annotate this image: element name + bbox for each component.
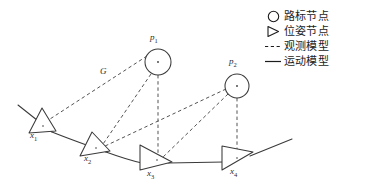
triangle-outline-icon	[262, 24, 284, 39]
legend-item-pose-node: 位姿节点	[262, 24, 366, 39]
pose-label-x1: x1	[30, 131, 37, 142]
solid-line-icon	[262, 54, 284, 69]
pose-label-x1-sub: 1	[34, 135, 37, 142]
observation-edge-p1-x2	[101, 74, 151, 147]
pose-label-x4: x4	[230, 167, 237, 178]
motion-edge-x2-x3	[106, 152, 142, 163]
edge-label-G: G	[100, 67, 107, 76]
dashed-line-icon	[262, 39, 284, 54]
pose-nodes-group	[29, 108, 253, 170]
pose-label-x4-sub: 4	[234, 171, 237, 178]
legend-item-motion-model: 运动模型	[262, 54, 366, 69]
center-dot-x4	[236, 157, 238, 159]
legend: 路标节点 位姿节点 观测模型 运动模型	[262, 9, 366, 69]
center-dot-p1	[157, 61, 159, 63]
slam-pose-graph-figure: G x1 x2 x3 x4 p1 p2 路标节点	[0, 0, 369, 193]
observation-edge-p2-x3	[161, 94, 228, 159]
legend-label-landmark-node: 路标节点	[284, 11, 329, 22]
pose-label-x3-sub: 3	[151, 173, 154, 180]
legend-label-observation-model: 观测模型	[284, 41, 329, 52]
pose-label-x3: x3	[147, 169, 154, 180]
landmark-label-p2: p2	[229, 57, 237, 68]
circle-outline-icon	[262, 9, 284, 24]
center-dot-x2	[95, 147, 97, 149]
observation-edge-p2-x2	[103, 89, 226, 147]
landmark-label-p1: p1	[150, 33, 158, 44]
legend-label-pose-node: 位姿节点	[284, 26, 329, 37]
motion-edge-x4-end	[250, 139, 292, 156]
observation-model-edges-group	[50, 56, 237, 159]
motion-edge-x3-x4	[168, 162, 224, 163]
center-dot-x1	[42, 125, 44, 127]
center-dot-p2	[236, 85, 238, 87]
landmark-label-p1-sub: 1	[155, 37, 158, 44]
landmark-label-p2-sub: 2	[234, 61, 237, 68]
pose-node-x3	[140, 145, 172, 170]
legend-item-observation-model: 观测模型	[262, 39, 366, 54]
pose-label-x2: x2	[84, 154, 91, 165]
observation-edge-p1-x1	[50, 56, 147, 119]
center-dot-x3	[156, 159, 158, 161]
legend-label-motion-model: 运动模型	[284, 56, 329, 67]
pose-label-x2-sub: 2	[88, 158, 91, 165]
legend-item-landmark-node: 路标节点	[262, 9, 366, 24]
